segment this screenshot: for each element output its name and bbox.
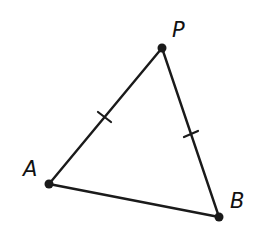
vertex-label-P: P: [172, 18, 185, 42]
segment-AB: [49, 184, 219, 217]
vertex-point-P: [158, 44, 167, 53]
vertex-point-B: [215, 213, 224, 222]
vertex-label-A: A: [21, 157, 37, 181]
vertex-label-B: B: [230, 189, 244, 213]
segment-AP: [49, 48, 162, 184]
isosceles-triangle-diagram: P A B: [0, 0, 259, 229]
vertex-point-A: [45, 180, 54, 189]
segment-PB: [162, 48, 219, 217]
congruence-tick-marks: [98, 112, 198, 137]
